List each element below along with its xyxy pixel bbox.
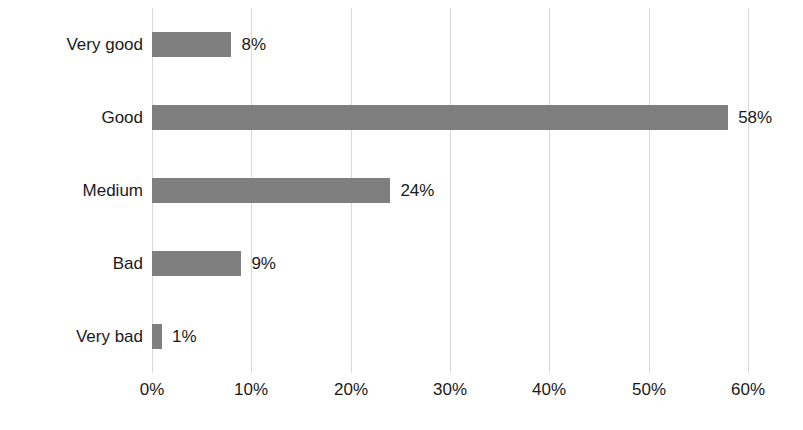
bar-very-good[interactable] xyxy=(152,32,231,57)
x-tick-label-60: 60% xyxy=(731,380,765,400)
gridline-60 xyxy=(748,8,749,373)
category-label-medium: Medium xyxy=(0,154,143,227)
bar-medium[interactable] xyxy=(152,178,390,203)
x-tick-label-30: 30% xyxy=(433,380,467,400)
plot-area: 8% 58% 24% 9% 1% xyxy=(152,8,748,373)
x-tick-label-10: 10% xyxy=(234,380,268,400)
x-tick-label-50: 50% xyxy=(632,380,666,400)
x-tick-label-20: 20% xyxy=(334,380,368,400)
bar-value-medium: 24% xyxy=(400,182,434,199)
bar-value-good: 58% xyxy=(738,109,772,126)
bar-row: 9% xyxy=(152,227,748,300)
bar-very-bad[interactable] xyxy=(152,324,162,349)
bar-good[interactable] xyxy=(152,105,728,130)
category-axis: Very good Good Medium Bad Very bad xyxy=(0,8,143,373)
category-label-good: Good xyxy=(0,81,143,154)
bar-chart: Very good Good Medium Bad Very bad 8% 58… xyxy=(0,0,803,430)
bar-row: 24% xyxy=(152,154,748,227)
bar-row: 58% xyxy=(152,81,748,154)
bar-value-bad: 9% xyxy=(251,255,276,272)
x-tick-label-0: 0% xyxy=(140,380,165,400)
bar-value-very-good: 8% xyxy=(241,36,266,53)
bar-row: 8% xyxy=(152,8,748,81)
category-label-very-good: Very good xyxy=(0,8,143,81)
category-label-bad: Bad xyxy=(0,227,143,300)
bar-value-very-bad: 1% xyxy=(172,328,197,345)
x-tick-label-40: 40% xyxy=(532,380,566,400)
bars-layer: 8% 58% 24% 9% 1% xyxy=(152,8,748,373)
x-axis: 0% 10% 20% 30% 40% 50% 60% xyxy=(152,380,748,410)
category-label-very-bad: Very bad xyxy=(0,300,143,373)
bar-row: 1% xyxy=(152,300,748,373)
bar-bad[interactable] xyxy=(152,251,241,276)
